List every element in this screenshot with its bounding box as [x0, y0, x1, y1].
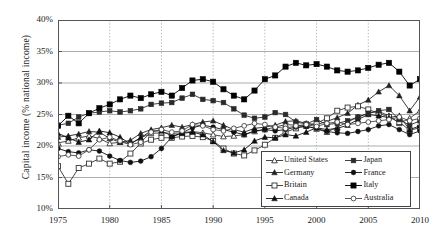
y-tick-label: 20%	[19, 140, 53, 150]
legend-marker-italy	[345, 179, 363, 192]
y-tick-label: 30%	[19, 77, 53, 87]
legend-label-france: France	[363, 167, 407, 180]
x-tick-label: 1990	[193, 215, 233, 225]
x-tick-label: 1980	[90, 215, 130, 225]
legend-marker-britain	[266, 179, 284, 192]
legend-marker-canada	[266, 192, 284, 205]
legend-marker-australia	[345, 192, 363, 205]
legend-marker-france	[345, 167, 363, 180]
legend-label-australia: Australia	[363, 192, 407, 205]
legend-label-japan: Japan	[363, 154, 407, 167]
legend-marker-germany	[266, 167, 284, 180]
legend-row: United StatesJapan	[266, 154, 407, 167]
series-italy	[58, 60, 420, 128]
x-tick-label: 2005	[348, 215, 388, 225]
legend-label-united-states: United States	[284, 154, 345, 167]
legend-label-canada: Canada	[284, 192, 345, 205]
legend-row: CanadaAustralia	[266, 192, 407, 205]
y-tick-label: 25%	[19, 109, 53, 119]
legend-row: BritainItaly	[266, 179, 407, 192]
y-tick-label: 35%	[19, 46, 53, 56]
legend-label-britain: Britain	[284, 179, 345, 192]
x-tick-label: 1995	[245, 215, 285, 225]
legend-table: United StatesJapanGermanyFranceBritainIt…	[266, 154, 407, 204]
y-axis-title: Capital income (% national income)	[21, 17, 31, 197]
legend-label-germany: Germany	[284, 167, 345, 180]
x-tick-label: 1985	[141, 215, 181, 225]
legend-marker-united-states	[266, 154, 284, 167]
legend-marker-japan	[345, 154, 363, 167]
legend-label-italy: Italy	[363, 179, 407, 192]
y-tick-label: 10%	[19, 203, 53, 213]
y-tick-label: 40%	[19, 14, 53, 24]
chart-legend: United StatesJapanGermanyFranceBritainIt…	[261, 151, 411, 207]
legend-row: GermanyFrance	[266, 167, 407, 180]
chart-figure: Capital income (% national income) 10%15…	[0, 0, 434, 245]
x-tick-label: 1975	[38, 215, 78, 225]
x-tick-label: 2010	[400, 215, 434, 225]
y-tick-label: 15%	[19, 172, 53, 182]
x-tick-label: 2000	[297, 215, 337, 225]
